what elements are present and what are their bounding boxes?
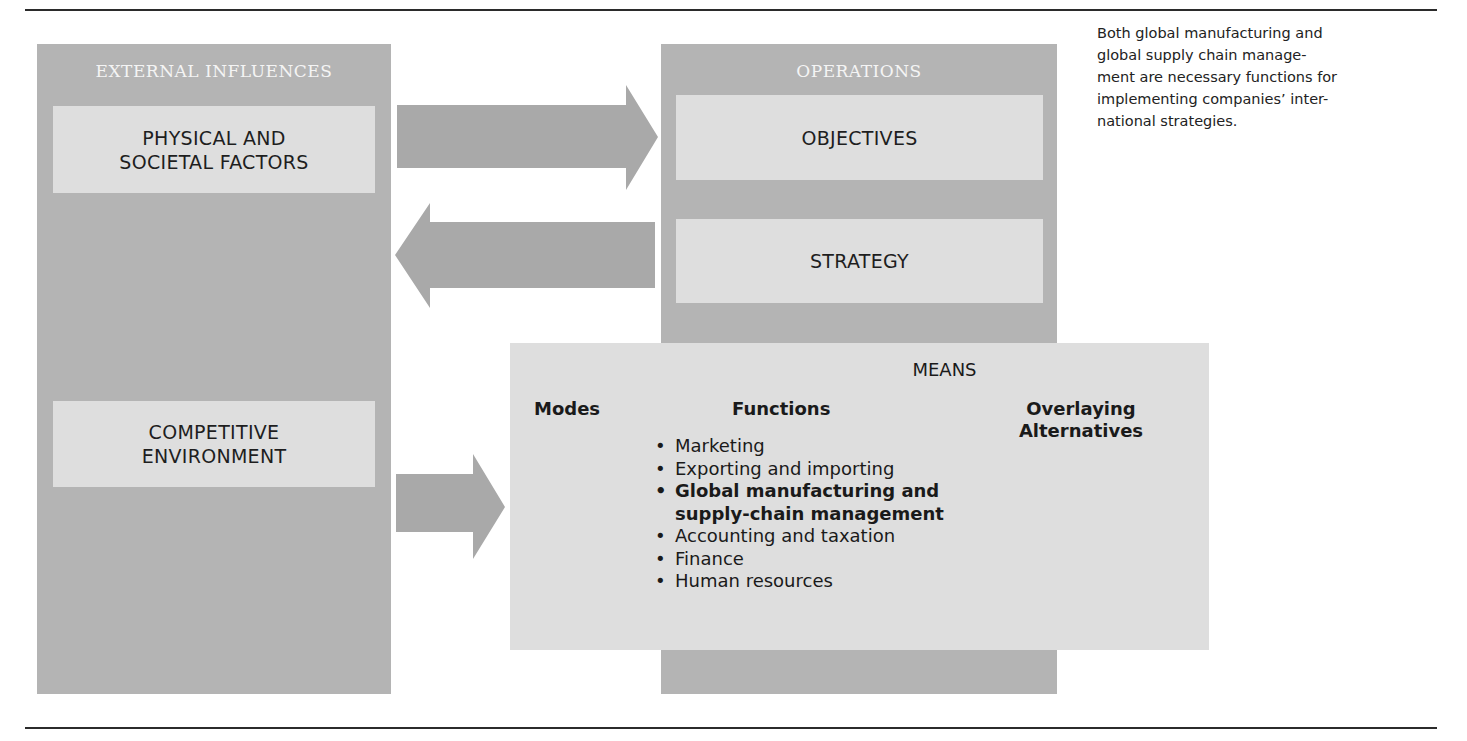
bullet-icon: • xyxy=(655,458,666,481)
function-item: •Marketing xyxy=(653,435,944,458)
means-title: MEANS xyxy=(510,359,1209,380)
function-item: •Finance xyxy=(653,548,944,571)
bullet-icon: • xyxy=(655,525,666,548)
function-item-highlighted: •Global manufacturing and xyxy=(653,480,944,503)
overlaying-line2: Alternatives xyxy=(1006,420,1156,442)
overlaying-line1: Overlaying xyxy=(1006,398,1156,420)
modes-heading: Modes xyxy=(534,398,600,420)
arrow-right-means-icon xyxy=(396,454,505,559)
arrow-right-icon xyxy=(397,85,658,190)
bullet-icon: • xyxy=(655,435,666,458)
function-item: •Accounting and taxation xyxy=(653,525,944,548)
functions-heading: Functions xyxy=(732,398,830,420)
functions-list: •Marketing •Exporting and importing •Glo… xyxy=(653,435,944,593)
means-box: MEANS Modes Functions Overlaying Alterna… xyxy=(510,343,1209,650)
bullet-icon: • xyxy=(655,480,667,503)
bullet-icon: • xyxy=(655,570,666,593)
function-item: •Human resources xyxy=(653,570,944,593)
function-item: •Exporting and importing xyxy=(653,458,944,481)
function-item-highlighted-continuation: supply-chain management xyxy=(653,503,944,526)
overlaying-alternatives-heading: Overlaying Alternatives xyxy=(1006,398,1156,442)
bullet-icon: • xyxy=(655,548,666,571)
figure-caption: Both global manufacturing and global sup… xyxy=(1097,22,1417,132)
arrow-left-icon xyxy=(395,203,655,308)
